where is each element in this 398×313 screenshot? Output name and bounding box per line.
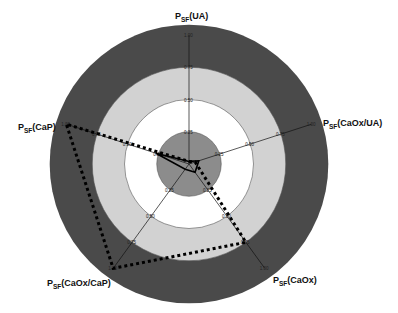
radar-chart: 0.250.500.751.000.250.500.751.000.250.50… bbox=[0, 0, 398, 313]
axis-label-2: PSF(CaOx) bbox=[273, 275, 317, 287]
axis-label-4: PSF(CaP) bbox=[18, 122, 56, 134]
tick-label: 1.00 bbox=[260, 266, 269, 271]
tick-label: 0.50 bbox=[146, 214, 155, 219]
tick-label: 0.25 bbox=[165, 188, 174, 193]
axis-label-1: PSF(CaOx/UA) bbox=[323, 118, 382, 130]
tick-label: 0.50 bbox=[184, 98, 193, 103]
tick-label: 0.50 bbox=[245, 142, 254, 147]
tick-label: 0.25 bbox=[184, 130, 193, 135]
tick-label: 0.25 bbox=[215, 152, 224, 157]
tick-label: 0.75 bbox=[127, 240, 136, 245]
axis-label-0: PSF(UA) bbox=[175, 11, 208, 23]
tick-label: 1.00 bbox=[184, 33, 193, 38]
tick-label: 0.75 bbox=[184, 65, 193, 70]
tick-label: 1.00 bbox=[307, 122, 316, 127]
tick-label: 0.75 bbox=[276, 132, 285, 137]
axis-label-3: PSF(CaOx/CaP) bbox=[47, 278, 111, 290]
